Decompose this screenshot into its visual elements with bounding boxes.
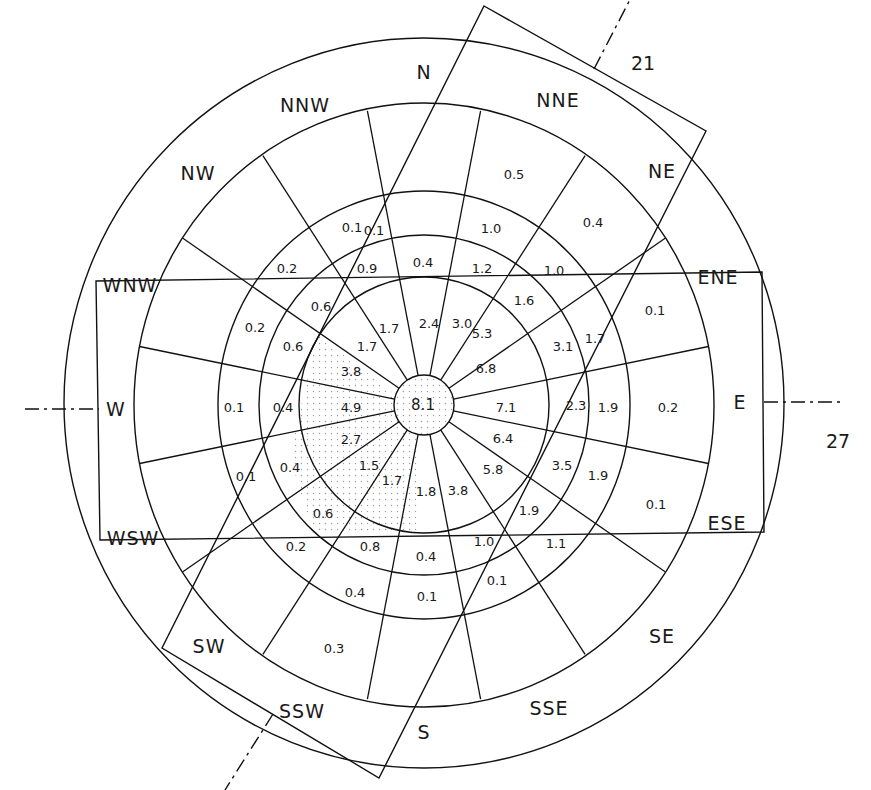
wind-frequency-value: 0.2 (245, 321, 266, 334)
wind-frequency-value: 3.0 (452, 317, 473, 330)
wind-frequency-value: 0.1 (224, 401, 245, 414)
wind-frequency-value: 1.9 (588, 469, 609, 482)
wind-frequency-value: 0.1 (236, 470, 257, 483)
compass-direction-label: SW (193, 637, 226, 656)
wind-frequency-value: 0.2 (286, 540, 307, 553)
wind-frequency-value: 0.2 (658, 401, 679, 414)
wind-rose-diagram: NNNENEENEEESESESSESSSWSWWSWWWNWNWNNW2127… (0, 0, 871, 790)
wind-frequency-value: 0.1 (646, 498, 667, 511)
wind-frequency-value: 3.8 (448, 484, 469, 497)
wind-frequency-value: 3.1 (553, 340, 574, 353)
wind-frequency-value: 1.0 (544, 264, 565, 277)
wind-frequency-value: 1.7 (585, 332, 606, 345)
wind-frequency-value: 1.5 (359, 459, 380, 472)
wind-frequency-value: 0.4 (416, 550, 437, 563)
compass-direction-label: NE (648, 162, 676, 181)
wind-frequency-value: 2.4 (419, 317, 440, 330)
wind-frequency-value: 1.1 (546, 537, 567, 550)
compass-direction-label: SE (649, 627, 675, 646)
wind-frequency-value: 0.1 (645, 304, 666, 317)
wind-frequency-value: 1.8 (416, 485, 437, 498)
wind-frequency-value: 3.8 (341, 365, 362, 378)
wind-frequency-value: 1.7 (379, 322, 400, 335)
wind-frequency-value: 0.1 (417, 590, 438, 603)
wind-frequency-value: 1.7 (382, 474, 403, 487)
wind-frequency-value: 4.9 (341, 401, 362, 414)
wind-frequency-value: 1.0 (481, 222, 502, 235)
wind-frequency-value: 0.6 (313, 507, 334, 520)
wind-frequency-value: 0.5 (504, 168, 525, 181)
compass-direction-label: ENE (697, 268, 738, 287)
wind-frequency-value: 2.3 (566, 399, 587, 412)
compass-direction-label: N (416, 63, 431, 82)
compass-direction-label: ESE (707, 514, 746, 533)
wind-frequency-value: 0.3 (324, 642, 345, 655)
wind-frequency-value: 0.4 (280, 461, 301, 474)
wind-frequency-value: 1.7 (357, 340, 378, 353)
compass-direction-label: SSW (279, 702, 325, 721)
compass-direction-label: E (733, 393, 746, 412)
wind-frequency-value: 0.4 (413, 256, 434, 269)
wind-frequency-value: 0.6 (311, 300, 332, 313)
wind-frequency-value: 0.1 (342, 221, 363, 234)
wind-frequency-value: 1.9 (519, 504, 540, 517)
wind-frequency-value: 1.6 (514, 294, 535, 307)
wind-frequency-value: 0.4 (345, 586, 366, 599)
shaded-wind-region (290, 335, 453, 532)
wind-frequency-value: 0.4 (583, 216, 604, 229)
wind-frequency-value: 1.0 (474, 535, 495, 548)
compass-direction-label: NNE (536, 91, 579, 110)
wind-frequency-value: 0.4 (273, 401, 294, 414)
wind-frequency-value: 2.7 (341, 433, 362, 446)
wind-frequency-value: 0.8 (360, 540, 381, 553)
wind-frequency-value: 1.2 (472, 262, 493, 275)
wind-frequency-value: 1.9 (598, 401, 619, 414)
wind-frequency-value: 3.5 (552, 459, 573, 472)
compass-direction-label: NW (181, 164, 216, 183)
wind-frequency-value: 0.1 (487, 574, 508, 587)
compass-direction-label: W (106, 400, 126, 419)
compass-direction-label: WNW (103, 276, 158, 295)
wind-frequency-value: 5.3 (472, 327, 493, 340)
wind-frequency-value: 5.8 (483, 463, 504, 476)
runway-end-label: 21 (631, 54, 655, 73)
runway-end-label: 27 (826, 432, 850, 451)
calm-center-value: 8.1 (411, 398, 435, 413)
compass-direction-label: S (417, 723, 430, 742)
compass-direction-label: NNW (280, 96, 330, 115)
wind-frequency-value: 7.1 (496, 401, 517, 414)
compass-direction-label: WSW (107, 529, 160, 548)
wind-frequency-value: 0.2 (277, 262, 298, 275)
compass-direction-label: SSE (529, 699, 568, 718)
wind-frequency-value: 0.9 (357, 262, 378, 275)
wind-frequency-value: 0.1 (364, 224, 385, 237)
wind-frequency-value: 0.6 (283, 340, 304, 353)
wind-frequency-value: 6.8 (476, 362, 497, 375)
wind-frequency-value: 6.4 (493, 432, 514, 445)
